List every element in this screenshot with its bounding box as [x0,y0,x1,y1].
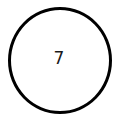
node-label: 7 [54,50,65,67]
circle-node: 7 [8,7,112,114]
